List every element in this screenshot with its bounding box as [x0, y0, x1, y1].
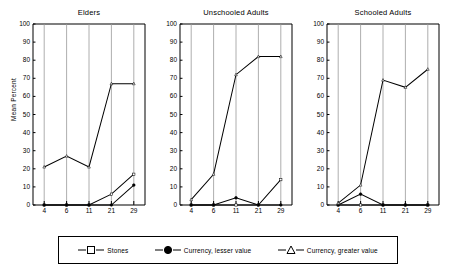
filled-circle-icon: [155, 244, 181, 256]
y-tick-label: 20: [170, 166, 177, 173]
x-tick-label: 11: [86, 208, 93, 215]
figure: Mean Percent Elders 01020304050607080901…: [0, 0, 449, 270]
legend-label: Stones: [107, 247, 128, 254]
x-tick-label: 4: [189, 208, 193, 215]
y-tick-label: 90: [23, 39, 30, 46]
x-tick-label: 11: [233, 208, 240, 215]
panel-title: Unschooled Adults: [180, 8, 292, 17]
y-tick-label: 60: [170, 93, 177, 100]
plot-svg: [33, 24, 145, 205]
y-tick-label: 30: [23, 147, 30, 154]
y-tick-label: 60: [23, 93, 30, 100]
y-tick-label: 0: [173, 202, 177, 209]
legend: StonesCurrency, lesser valueCurrency, gr…: [58, 236, 398, 264]
panel-schooled-adults: Schooled Adults 010203040506070809010046…: [327, 0, 439, 222]
x-tick-label: 6: [65, 208, 69, 215]
y-tick-label: 80: [23, 57, 30, 64]
legend-label: Currency, greater value: [307, 247, 378, 254]
y-tick-label: 10: [170, 184, 177, 191]
y-tick-label: 50: [23, 111, 30, 118]
legend-entry: Currency, lesser value: [155, 244, 251, 256]
panel-title: Elders: [33, 8, 145, 17]
y-tick-label: 30: [317, 147, 324, 154]
y-tick-label: 40: [170, 129, 177, 136]
y-tick-label: 60: [317, 93, 324, 100]
y-tick-label: 0: [26, 202, 30, 209]
plot-area: 010203040506070809010046112129: [33, 24, 145, 205]
y-tick-label: 100: [313, 21, 324, 28]
y-tick-label: 80: [317, 57, 324, 64]
plot-area: 010203040506070809010046112129: [180, 24, 292, 205]
y-tick-label: 70: [317, 75, 324, 82]
x-tick-label: 6: [212, 208, 216, 215]
y-tick-label: 40: [317, 129, 324, 136]
y-tick-label: 90: [317, 39, 324, 46]
y-tick-label: 100: [166, 21, 177, 28]
plot-svg: [180, 24, 292, 205]
y-tick-label: 50: [317, 111, 324, 118]
x-tick-label: 21: [402, 208, 409, 215]
x-tick-label: 11: [380, 208, 387, 215]
panel-title: Schooled Adults: [327, 8, 439, 17]
plot-area: 010203040506070809010046112129: [327, 24, 439, 205]
y-tick-label: 100: [19, 21, 30, 28]
y-axis-label: Mean Percent: [10, 60, 17, 140]
open-triangle-icon: [278, 244, 304, 256]
y-tick-label: 80: [170, 57, 177, 64]
x-tick-label: 4: [42, 208, 46, 215]
legend-entry: Currency, greater value: [278, 244, 378, 256]
y-tick-label: 40: [23, 129, 30, 136]
x-tick-label: 6: [359, 208, 363, 215]
x-tick-label: 21: [108, 208, 115, 215]
panel-unschooled-adults: Unschooled Adults 0102030405060708090100…: [180, 0, 292, 222]
y-tick-label: 90: [170, 39, 177, 46]
y-tick-label: 30: [170, 147, 177, 154]
legend-label: Currency, lesser value: [184, 247, 251, 254]
y-tick-label: 10: [23, 184, 30, 191]
y-tick-label: 20: [317, 166, 324, 173]
plot-svg: [327, 24, 439, 205]
x-tick-label: 29: [424, 208, 431, 215]
x-tick-label: 21: [255, 208, 262, 215]
y-tick-label: 20: [23, 166, 30, 173]
y-tick-label: 0: [320, 202, 324, 209]
y-tick-label: 70: [23, 75, 30, 82]
y-tick-label: 70: [170, 75, 177, 82]
x-tick-label: 29: [277, 208, 284, 215]
open-square-icon: [78, 244, 104, 256]
x-tick-label: 4: [336, 208, 340, 215]
y-tick-label: 50: [170, 111, 177, 118]
x-tick-label: 29: [130, 208, 137, 215]
y-tick-label: 10: [317, 184, 324, 191]
panel-elders: Elders 010203040506070809010046112129: [33, 0, 145, 222]
legend-entry: Stones: [78, 244, 128, 256]
